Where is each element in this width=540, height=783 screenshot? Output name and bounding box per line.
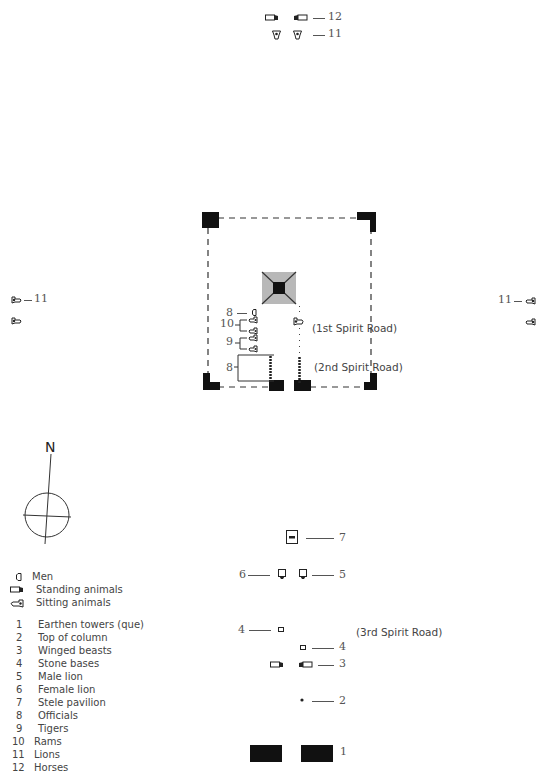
compass-icon (18, 454, 78, 546)
leader-line (306, 538, 334, 539)
leader-line (249, 630, 271, 631)
lion-icon (272, 30, 281, 40)
north-label: N (45, 441, 55, 453)
sitting-animal-icon (10, 599, 24, 608)
winged-beast-icon (270, 661, 284, 669)
label-7: 7 (339, 532, 346, 544)
label-5: 5 (339, 569, 346, 581)
tiger-icon (248, 334, 258, 342)
horse-icon (294, 14, 308, 22)
official-icon (252, 309, 257, 316)
officials-row-right (297, 357, 302, 383)
bracket (235, 319, 249, 333)
leader-line (312, 648, 334, 649)
leader-line (24, 300, 32, 301)
legend-symbol-sitting: Sitting animals (10, 596, 111, 609)
third-spirit-road-label: (3rd Spirit Road) (356, 626, 442, 638)
legend-item: 12Horses (10, 761, 68, 774)
label-1: 1 (340, 746, 347, 758)
label-6: 6 (239, 569, 246, 581)
earthen-tower-right (301, 745, 333, 762)
sitting-lion-icon (11, 317, 22, 325)
winged-beast-icon (299, 661, 313, 669)
legend-item: 9Tigers (10, 722, 68, 735)
officials-row-left (268, 356, 273, 382)
legend-item: 5Male lion (10, 670, 83, 683)
label-4: 4 (238, 624, 245, 636)
leader-line (237, 313, 247, 314)
earthen-tower-left (250, 745, 282, 762)
stele-pavilion-icon (286, 530, 298, 544)
sitting-lion-icon (525, 297, 536, 305)
burial-mound (262, 272, 296, 304)
label-8: 8 (226, 362, 233, 374)
leader-line (313, 35, 325, 36)
label-9: 9 (226, 336, 233, 348)
column-top-icon (300, 698, 304, 702)
leader-line (312, 575, 334, 576)
label-11: 11 (328, 28, 342, 40)
sitting-lion-icon (11, 296, 22, 304)
standing-animal-icon (10, 586, 24, 594)
men-icon (16, 573, 22, 581)
first-spirit-road-label: (1st Spirit Road) (312, 322, 397, 334)
tiger-icon (248, 345, 258, 353)
legend-item: 11Lions (10, 748, 60, 761)
stone-base-icon (300, 645, 306, 650)
legend-item: 1Earthen towers (que) (10, 618, 144, 631)
label-4: 4 (339, 641, 346, 653)
legend-item: 4Stone bases (10, 657, 99, 670)
legend-label: Men (32, 571, 53, 582)
label-11: 11 (498, 294, 512, 306)
leader-line (318, 665, 334, 666)
spirit-road-dots (298, 306, 301, 356)
label-11: 11 (34, 293, 48, 305)
legend-item: 2Top of column (10, 631, 108, 644)
horse-icon (265, 14, 279, 22)
leader-line (248, 575, 270, 576)
second-spirit-road-label: (2nd Spirit Road) (314, 361, 403, 373)
male-lion-icon (299, 569, 307, 580)
label-12: 12 (328, 11, 342, 23)
legend-symbol-standing: Standing animals (10, 583, 123, 596)
leader-line (514, 301, 522, 302)
legend-label: Standing animals (36, 584, 123, 595)
legend-item: 6Female lion (10, 683, 95, 696)
leader-line (313, 18, 325, 19)
legend-item: 10Rams (10, 735, 62, 748)
label-2: 2 (339, 695, 346, 707)
bracket (235, 337, 249, 351)
legend-item: 3Winged beasts (10, 644, 112, 657)
lion-icon (293, 30, 302, 40)
legend-symbol-men: Men (10, 570, 53, 583)
leader-line (312, 701, 334, 702)
legend-item: 7Stele pavilion (10, 696, 106, 709)
label-10: 10 (220, 318, 234, 330)
legend-item: 8Officials (10, 709, 78, 722)
ram-icon (248, 316, 258, 324)
female-lion-icon (278, 569, 286, 580)
legend-label: Sitting animals (36, 597, 111, 608)
stone-base-icon (278, 627, 284, 632)
label-3: 3 (339, 658, 346, 670)
sitting-lion-icon (525, 318, 536, 326)
